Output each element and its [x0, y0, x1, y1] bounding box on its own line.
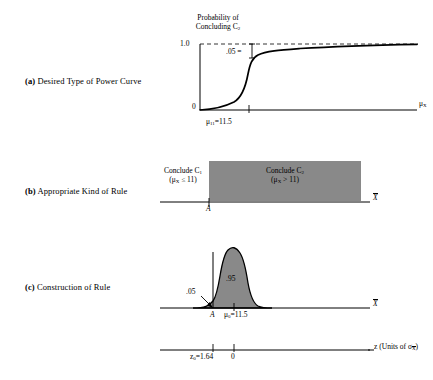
panel-c-z-label-connector: [0, 0, 433, 380]
figure-container: (a) Desired Type of Power Curve Probabil…: [0, 0, 433, 380]
